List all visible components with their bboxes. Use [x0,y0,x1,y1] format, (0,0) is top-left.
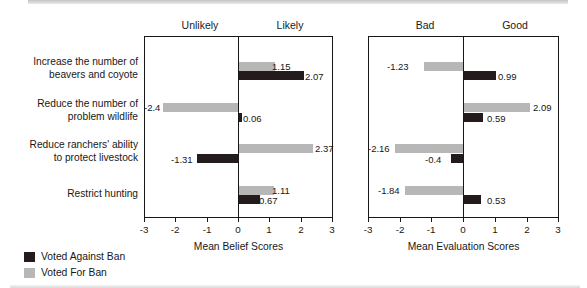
bar-label-right-r4-for: -1.84 [378,186,400,195]
bar-left-r3-for [239,144,313,153]
legend-swatch-voted-against-ban [24,252,35,262]
right-panel-pole-bad: Bad [385,19,465,31]
category-label-2-line1: Reduce the number of [0,98,138,111]
category-label-1-line1: Increase the number of [0,56,138,69]
category-label-4-line1: Restrict hunting [0,188,138,201]
left-tick-2 [301,218,302,222]
bar-label-left-r3-against: -1.31 [171,155,193,164]
category-label-3-line1: Reduce ranchers' ability [0,139,138,152]
legend-label-voted-against-ban: Voted Against Ban [41,251,125,262]
left-panel-pole-likely: Likely [250,19,330,31]
bar-label-right-r1-for: -1.23 [387,62,409,71]
bar-label-left-r4-against: 0.67 [259,196,278,205]
right-tick-label-1: 1 [485,224,505,235]
figure-root: Increase the number of beavers and coyot… [0,0,587,288]
left-tick-label-2: 2 [291,224,311,235]
right-tick-1 [495,218,496,222]
right-tick--1 [431,218,432,222]
bar-label-left-r1-against: 2.07 [305,72,324,81]
scan-edge-top [28,0,568,4]
left-tick-label--3: -3 [134,224,154,235]
bar-label-left-r4-for: 1.11 [272,186,290,195]
left-tick--3 [144,218,145,222]
bar-right-r2-against [464,113,483,122]
bar-left-r4-against [239,195,260,204]
bar-left-r2-for [163,103,238,112]
left-panel-plot-area [144,36,333,218]
left-panel-pole-unlikely: Unlikely [160,19,240,31]
bar-right-r4-against [464,195,481,204]
bar-right-r2-for [464,103,530,112]
right-panel-pole-good: Good [475,19,555,31]
right-tick-label--2: -2 [390,224,410,235]
left-tick-label--2: -2 [165,224,185,235]
category-label-3-line2: to protect livestock [0,152,138,165]
right-tick-label-0: 0 [453,224,473,235]
bar-right-r1-for [424,62,463,71]
right-panel-axis-title: Mean Evaluation Scores [368,241,559,252]
bar-label-right-r3-for: -2.16 [368,144,390,153]
right-tick-label--1: -1 [421,224,441,235]
bar-label-left-r2-against: 0.06 [243,114,262,123]
right-tick-0 [463,218,464,222]
left-tick-label-1: 1 [259,224,279,235]
category-label-3: Reduce ranchers' ability to protect live… [0,139,138,164]
left-tick-3 [332,218,333,222]
bar-left-r1-against [239,71,304,80]
legend-label-voted-for-ban: Voted For Ban [41,267,107,278]
bar-label-right-r3-against: -0.4 [425,155,441,164]
right-tick--2 [400,218,401,222]
right-tick-label--3: -3 [358,224,378,235]
left-tick-label-3: 3 [322,224,342,235]
left-tick-0 [238,218,239,222]
bar-left-r1-for [239,62,275,71]
left-tick--2 [175,218,176,222]
left-tick-label-0: 0 [228,224,248,235]
bar-right-r1-against [464,71,495,80]
left-tick--1 [207,218,208,222]
right-tick-2 [527,218,528,222]
category-label-2-line2: problem wildlife [0,111,138,124]
bar-label-left-r1-for: 1.15 [272,62,291,71]
bar-label-right-r2-against: 0.59 [487,114,506,123]
bar-label-right-r2-for: 2.09 [533,103,552,112]
bar-label-right-r4-against: 0.53 [487,196,506,205]
legend-swatch-voted-for-ban [24,268,35,278]
bar-left-r2-against [239,113,241,122]
bar-right-r3-for [395,144,464,153]
bar-label-left-r3-for: 2.37 [315,144,334,153]
category-label-1-line2: beavers and coyote [0,69,138,82]
category-label-1: Increase the number of beavers and coyot… [0,56,138,81]
right-tick--3 [368,218,369,222]
bar-right-r3-against [451,154,464,163]
right-tick-label-2: 2 [517,224,537,235]
bar-right-r4-for [405,186,463,195]
right-tick-label-3: 3 [548,224,568,235]
bar-left-r4-for [239,186,274,195]
category-label-2: Reduce the number of problem wildlife [0,98,138,123]
bar-left-r3-against [197,154,238,163]
right-tick-3 [558,218,559,222]
left-tick-1 [269,218,270,222]
bar-label-left-r2-for: -2.4 [144,103,160,112]
bar-label-right-r1-against: 0.99 [498,72,517,81]
category-label-4: Restrict hunting [0,188,138,201]
left-panel-axis-title: Mean Belief Scores [144,241,333,252]
left-tick-label--1: -1 [197,224,217,235]
